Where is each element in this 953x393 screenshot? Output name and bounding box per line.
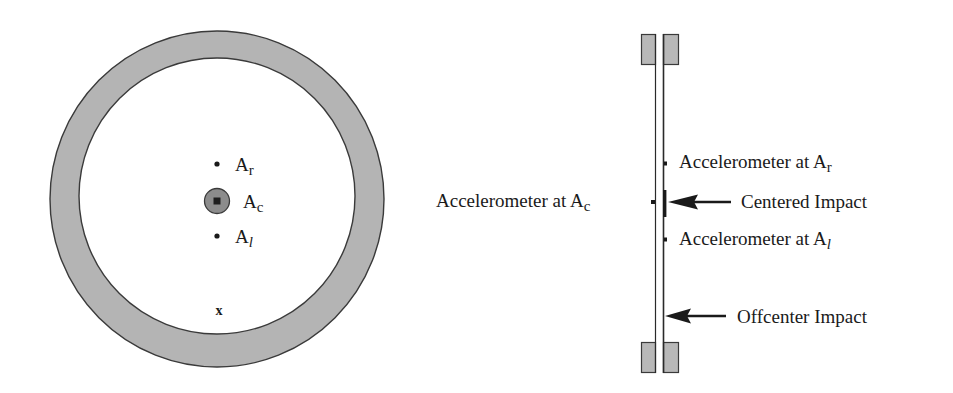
accelerometer-al-marker <box>664 238 667 242</box>
centered-impact-arrow-icon <box>668 195 731 210</box>
impactor-contact-bar <box>663 190 666 217</box>
accelerometer-ac-marker <box>651 200 655 204</box>
label-accelerometer-al: Accelerometer at Al <box>679 228 831 252</box>
label-accelerometer-ac: Accelerometer at Ac <box>436 190 591 214</box>
top-clamp <box>642 35 679 65</box>
label-centered-impact: Centered Impact <box>741 191 868 212</box>
offcenter-impact-marker: x <box>216 303 223 318</box>
front-view: Ar Ac Al x <box>50 31 384 367</box>
bottom-clamp <box>642 343 679 373</box>
accelerometer-ar-dot <box>214 161 219 166</box>
offcenter-impact-arrow-icon <box>665 309 726 324</box>
accelerometer-al-dot <box>214 233 219 238</box>
diagram-canvas: Ar Ac Al x <box>0 0 953 393</box>
label-offcenter-impact: Offcenter Impact <box>737 306 868 327</box>
side-view: Accelerometer at Ar Accelerometer at Ac … <box>436 34 868 373</box>
impact-point-center <box>214 198 221 205</box>
plate-cross-section <box>656 34 664 373</box>
label-accelerometer-ar: Accelerometer at Ar <box>679 151 832 175</box>
accelerometer-ar-marker <box>664 162 667 166</box>
